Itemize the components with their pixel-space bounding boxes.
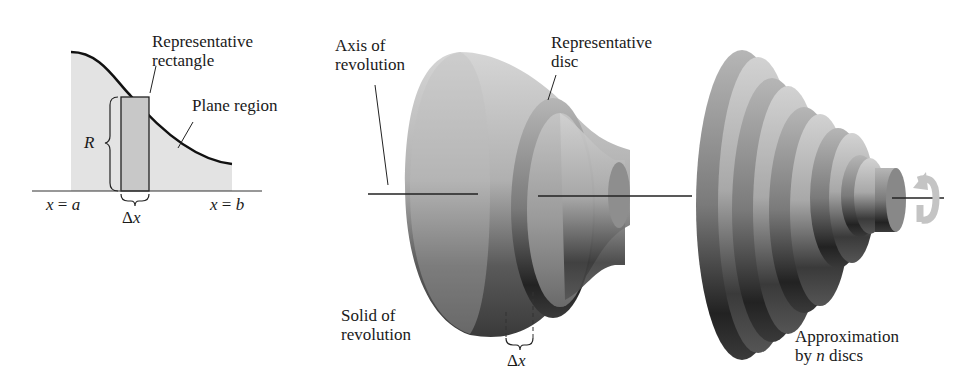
x-var: x [210,195,218,214]
approx-label-1: Approximation [795,327,899,346]
equals: = [218,195,236,214]
x-equals-b-label: x = b [210,195,244,214]
b-val: b [236,195,245,214]
equals: = [54,195,72,214]
plane-region-graph [32,52,262,206]
x-var: x [46,195,54,214]
delta-x-brace [121,194,149,206]
rep-rect-leader [150,66,156,93]
by-text: by [795,346,816,365]
disc-stack [640,50,944,360]
delta-x-brace-mid [506,338,533,350]
solid-label-2: revolution [341,325,411,344]
plane-region-leader [178,122,193,148]
a-val: a [72,195,81,214]
solid-label-1: Solid of [341,306,395,325]
axis-label-1: Axis of [335,36,386,55]
plane-region [71,52,232,191]
rep-rect-label-2: rectangle [152,51,214,70]
disc-label-2: disc [551,52,578,71]
approx-label-2: by n discs [795,346,863,365]
solid-end-face [608,162,630,228]
disc-end-face [886,168,906,232]
x-var: x [518,351,526,370]
x-var: x [133,208,141,227]
delta-x-label-left: Δx [122,208,140,227]
disc-label-1: Representative [551,33,652,52]
axis-label-2: revolution [335,55,405,74]
discs-text: discs [825,346,863,365]
delta-symbol: Δ [122,208,133,227]
axis-leader [375,85,388,185]
rotation-arrow-icon [913,172,936,222]
delta-x-label-mid: Δx [507,351,525,370]
n-var: n [816,346,825,365]
x-equals-a-label: x = a [46,195,80,214]
solid-of-revolution [368,52,640,350]
plane-region-label: Plane region [192,96,277,115]
representative-rectangle [121,97,149,191]
rep-rect-label-1: Representative [152,32,253,51]
radius-label: R [84,133,94,152]
delta-symbol: Δ [507,351,518,370]
